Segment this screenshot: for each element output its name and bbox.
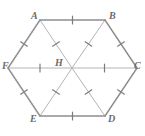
side-CD-tick — [118, 90, 125, 94]
vertex-label-b: B — [109, 11, 116, 21]
spoke-group — [8, 20, 137, 116]
vertex-label-h: H — [55, 58, 63, 68]
hexagon-diagram — [0, 0, 145, 136]
vertex-label-f: F — [2, 61, 9, 71]
vertex-label-d: D — [108, 114, 115, 124]
vertex-label-c: C — [134, 61, 141, 71]
vertex-label-e: E — [30, 114, 37, 124]
spoke-HE-tick — [53, 90, 60, 94]
spoke-HA-tick — [53, 42, 60, 46]
side-EF-tick — [21, 90, 28, 94]
vertex-label-a: A — [31, 11, 38, 21]
side-FA-tick — [21, 42, 28, 46]
side-BC-tick — [118, 42, 125, 46]
spoke-HB-tick — [85, 42, 92, 47]
hexagon-figure: ABCDEFH — [0, 0, 145, 136]
spoke-HD-tick — [85, 90, 92, 95]
